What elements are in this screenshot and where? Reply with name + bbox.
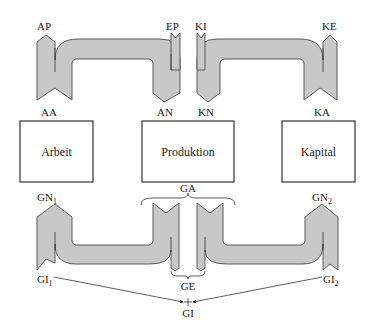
bottom-left-flow [37, 203, 179, 271]
ge-brace [171, 271, 205, 279]
label-kn: KN [198, 106, 214, 118]
label-ap: AP [37, 20, 51, 32]
box-produktion: Produktion [142, 121, 234, 182]
label-ge: GE [181, 280, 196, 292]
label-gi2: GI2 [323, 273, 339, 288]
labor-flow [37, 33, 180, 102]
box-produktion-label: Produktion [161, 145, 214, 159]
label-aa: AA [41, 106, 57, 118]
bottom-right-band [197, 203, 338, 271]
capital-flow-band [197, 35, 337, 102]
ki-stem [197, 33, 205, 70]
bottom-left-band [37, 203, 179, 271]
label-an: AN [157, 106, 173, 118]
gi2-arrow [193, 277, 322, 302]
box-kapital-label: Kapital [301, 145, 337, 159]
label-gi1: GI1 [37, 273, 53, 288]
ga-brace [141, 193, 235, 205]
box-kapital: Kapital [282, 121, 355, 182]
box-arbeit-label: Arbeit [41, 145, 72, 159]
label-gi: GI [182, 307, 194, 319]
capital-flow [197, 33, 337, 102]
gi1-arrow [54, 277, 183, 302]
label-ki: KI [195, 20, 207, 32]
flow-diagram: AP AA EP AN KI KN KE KA Arbeit Produktio… [0, 0, 371, 332]
label-ke: KE [322, 20, 337, 32]
ep-stem [171, 33, 180, 70]
bottom-right-flow [197, 203, 338, 271]
label-ga: GA [180, 182, 196, 194]
label-gn1: GN1 [37, 191, 57, 206]
label-ep: EP [166, 20, 179, 32]
labor-flow-band [37, 35, 180, 102]
box-arbeit: Arbeit [20, 121, 93, 182]
label-ka: KA [314, 106, 330, 118]
gi-plus-icon [184, 298, 192, 306]
